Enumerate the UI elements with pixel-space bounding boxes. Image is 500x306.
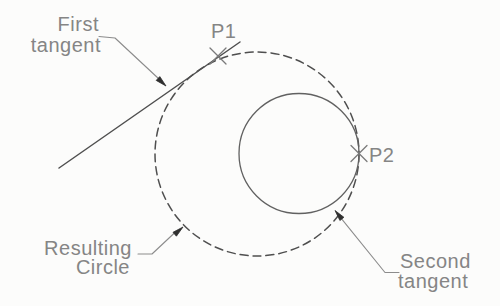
first-tangent-label-line1: First xyxy=(58,13,99,35)
resulting-circle-dashed xyxy=(155,52,359,256)
second-tangent-label-line1: Second xyxy=(400,250,471,272)
resulting-circle-arrowhead xyxy=(173,227,183,236)
resulting-circle-label-line2: Circle xyxy=(76,256,130,278)
p1-label: P1 xyxy=(211,20,236,42)
p1-pick-marker xyxy=(210,48,226,64)
diagram-canvas: First tangent P1 P2 Resulting Circle Sec… xyxy=(0,0,500,306)
resulting-circle-leader xyxy=(138,232,176,255)
p2-label: P2 xyxy=(369,144,394,166)
second-tangent-leader xyxy=(341,218,399,272)
second-tangent-circle xyxy=(239,94,359,214)
tangent-circle-diagram: First tangent P1 P2 Resulting Circle Sec… xyxy=(0,0,500,306)
second-tangent-label-line2: tangent xyxy=(398,270,468,292)
first-tangent-leader xyxy=(99,37,159,80)
first-tangent-label-line2: tangent xyxy=(31,34,101,56)
